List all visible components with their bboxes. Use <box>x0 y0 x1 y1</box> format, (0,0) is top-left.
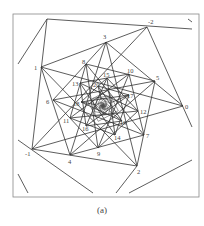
outer-line <box>116 166 137 193</box>
core-square <box>100 103 106 109</box>
outer-line <box>188 19 192 22</box>
spiral-edge <box>32 106 183 149</box>
outer-line <box>18 174 28 193</box>
spiral-edge <box>70 111 138 118</box>
vertex-label-12: 12 <box>140 108 147 115</box>
vertex-label-6: 6 <box>46 98 50 105</box>
vertex-label-16: 16 <box>82 125 89 132</box>
vertex-label-10: 10 <box>127 67 134 74</box>
vertex-label-17: 17 <box>127 92 134 99</box>
vertex-label-15: 15 <box>103 71 110 78</box>
spiral-edge <box>41 67 70 155</box>
spiral-edge <box>32 149 137 166</box>
spiral-polygon-edges <box>32 27 183 166</box>
vertex-label-4: 4 <box>68 158 72 165</box>
spiral-diagram-figure: -2-101234567891011121314151617181920 (a) <box>0 0 204 226</box>
vertex-label-5: 5 <box>156 74 159 81</box>
vertex-label-8: 8 <box>82 58 85 65</box>
figure-caption: (a) <box>0 205 204 215</box>
vertex-label-9: 9 <box>97 150 100 157</box>
outer-line <box>147 27 192 127</box>
vertex-label-3: 3 <box>103 33 106 40</box>
outer-line <box>47 19 192 29</box>
spiral-edge <box>41 67 137 166</box>
outer-line <box>18 140 93 193</box>
vertex-label-13: 13 <box>72 80 79 87</box>
spiral-edge <box>53 81 155 100</box>
vertex-label-20: 20 <box>93 81 100 88</box>
vertex-label-18: 18 <box>73 100 80 107</box>
vertex-label--1: -1 <box>25 150 30 157</box>
spiral-edge <box>41 27 147 67</box>
core-square <box>102 105 104 107</box>
spiral-diagram: -2-101234567891011121314151617181920 <box>0 0 204 226</box>
vertex-label-7: 7 <box>146 132 150 139</box>
vertex-label-0: 0 <box>185 103 188 110</box>
vertex-label-2: 2 <box>137 168 140 175</box>
outer-line <box>129 160 192 193</box>
core-square <box>100 103 106 109</box>
vertex-label-1: 1 <box>34 64 37 71</box>
spiral-edge <box>98 111 138 148</box>
vertex-label-14: 14 <box>114 134 121 141</box>
vertex-label-19: 19 <box>120 119 127 126</box>
vertex-label-11: 11 <box>63 117 69 124</box>
vertex-label--2: -2 <box>148 18 153 25</box>
